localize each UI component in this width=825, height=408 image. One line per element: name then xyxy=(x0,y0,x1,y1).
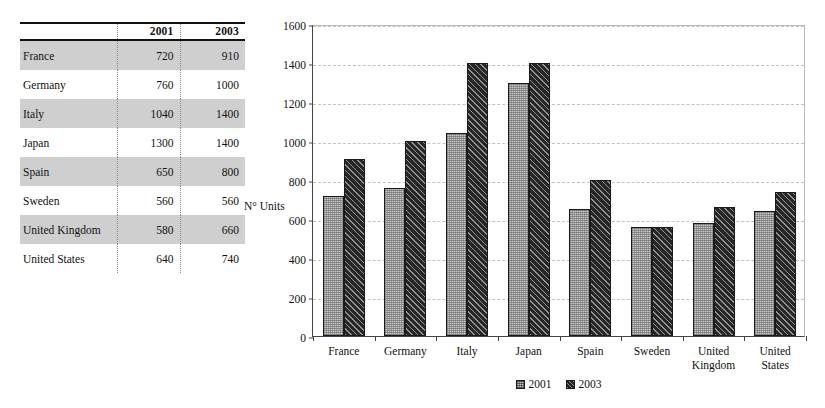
cell-country: Sweden xyxy=(20,186,117,215)
bar-2001[interactable] xyxy=(323,196,344,336)
y-tick-label: 1400 xyxy=(283,59,306,71)
bars-layer xyxy=(313,26,804,336)
table-row: France720910 xyxy=(20,40,245,70)
bar-2003[interactable] xyxy=(775,192,796,336)
bar-2003[interactable] xyxy=(590,180,611,336)
cell-2001: 640 xyxy=(117,244,180,273)
legend-label: 2001 xyxy=(529,378,552,390)
table-row: Spain650800 xyxy=(20,157,245,186)
table-header: 2001 2003 xyxy=(20,23,245,40)
cell-2003: 560 xyxy=(180,186,245,215)
bar-group xyxy=(754,26,796,336)
bar-2001[interactable] xyxy=(446,133,467,336)
legend-entry-2001[interactable]: 2001 xyxy=(516,378,552,390)
legend-swatch-icon xyxy=(516,380,525,389)
cell-2001: 560 xyxy=(117,186,180,215)
bar-group xyxy=(631,26,673,336)
x-tick-mark xyxy=(806,336,807,341)
legend-label: 2003 xyxy=(579,378,602,390)
cell-2003: 1400 xyxy=(180,99,245,128)
cell-country: Germany xyxy=(20,70,117,99)
bar-2001[interactable] xyxy=(631,227,652,336)
table-row: United Kingdom580660 xyxy=(20,215,245,244)
bar-2001[interactable] xyxy=(754,211,775,336)
x-tick-label: France xyxy=(328,345,359,359)
bar-2001[interactable] xyxy=(384,188,405,336)
cell-2001: 650 xyxy=(117,157,180,186)
x-tick-mark xyxy=(313,336,314,341)
table-header-row: 2001 2003 xyxy=(20,23,245,40)
legend-entry-2003[interactable]: 2003 xyxy=(566,378,602,390)
cell-2001: 1040 xyxy=(117,99,180,128)
bar-group xyxy=(384,26,426,336)
y-tick-label: 200 xyxy=(289,293,306,305)
x-tick-label: Japan xyxy=(516,345,542,359)
statistics-table: 2001 2003 France720910Germany7601000Ital… xyxy=(20,22,245,273)
statistics-table-block: 2001 2003 France720910Germany7601000Ital… xyxy=(20,22,245,273)
bar-chart: N° Units 02004006008001000120014001600 F… xyxy=(246,14,821,404)
y-tick-label: 800 xyxy=(289,176,306,188)
table-row: Italy10401400 xyxy=(20,99,245,128)
bar-2001[interactable] xyxy=(569,209,590,336)
y-tick-label: 600 xyxy=(289,215,306,227)
x-tick-label: United Kingdom xyxy=(692,345,735,372)
bar-2003[interactable] xyxy=(405,141,426,336)
y-tick-label: 400 xyxy=(289,254,306,266)
bar-2001[interactable] xyxy=(693,223,714,336)
x-tick-label: Italy xyxy=(457,345,478,359)
x-tick-mark xyxy=(683,336,684,341)
bar-2003[interactable] xyxy=(467,63,488,336)
bar-group xyxy=(569,26,611,336)
cell-2001: 760 xyxy=(117,70,180,99)
x-tick-label: Sweden xyxy=(634,345,670,359)
bar-group xyxy=(508,26,550,336)
cell-2001: 580 xyxy=(117,215,180,244)
x-tick-label: Spain xyxy=(577,345,603,359)
bar-2003[interactable] xyxy=(529,63,550,336)
bar-group xyxy=(693,26,735,336)
y-tick-label: 1000 xyxy=(283,137,306,149)
cell-country: Italy xyxy=(20,99,117,128)
cell-2003: 740 xyxy=(180,244,245,273)
cell-2003: 1400 xyxy=(180,128,245,157)
y-tick-label: 1600 xyxy=(283,20,306,32)
y-axis-title: N° Units xyxy=(244,200,285,212)
bar-2003[interactable] xyxy=(652,227,673,336)
table-row: Japan13001400 xyxy=(20,128,245,157)
bar-2003[interactable] xyxy=(714,207,735,336)
cell-country: Spain xyxy=(20,157,117,186)
cell-country: United Kingdom xyxy=(20,215,117,244)
x-tick-label: Germany xyxy=(384,345,427,359)
table-row: Germany7601000 xyxy=(20,70,245,99)
x-tick-mark xyxy=(621,336,622,341)
cell-2003: 910 xyxy=(180,40,245,70)
plot-area: 02004006008001000120014001600 FranceGerm… xyxy=(312,25,805,337)
bar-group xyxy=(446,26,488,336)
column-header-2001: 2001 xyxy=(117,23,180,40)
x-tick-mark xyxy=(744,336,745,341)
x-tick-mark xyxy=(375,336,376,341)
table-row: Sweden560560 xyxy=(20,186,245,215)
cell-country: France xyxy=(20,40,117,70)
bar-2001[interactable] xyxy=(508,83,529,337)
cell-2003: 1000 xyxy=(180,70,245,99)
table-body: France720910Germany7601000Italy10401400J… xyxy=(20,40,245,273)
table-row: United States640740 xyxy=(20,244,245,273)
chart-legend: 20012003 xyxy=(312,378,805,390)
cell-2001: 720 xyxy=(117,40,180,70)
y-tick-label: 0 xyxy=(300,332,306,344)
cell-2003: 800 xyxy=(180,157,245,186)
cell-country: United States xyxy=(20,244,117,273)
column-header-country xyxy=(20,23,117,40)
cell-country: Japan xyxy=(20,128,117,157)
x-tick-mark xyxy=(498,336,499,341)
cell-2001: 1300 xyxy=(117,128,180,157)
legend-swatch-icon xyxy=(566,380,575,389)
x-tick-mark xyxy=(560,336,561,341)
x-tick-mark xyxy=(436,336,437,341)
cell-2003: 660 xyxy=(180,215,245,244)
column-header-2003: 2003 xyxy=(180,23,245,40)
y-tick-label: 1200 xyxy=(283,98,306,110)
bar-group xyxy=(323,26,365,336)
bar-2003[interactable] xyxy=(344,159,365,336)
